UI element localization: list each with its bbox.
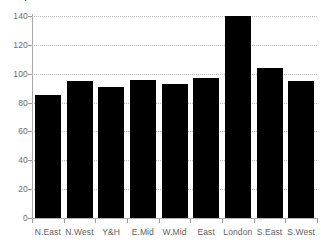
y-axis-label-80: 80 [2, 99, 28, 108]
y-axis-label-slot: 140 [0, 12, 28, 21]
y-axis-label-40: 40 [2, 156, 28, 165]
bar-s-west[interactable] [288, 81, 314, 218]
x-tick-mark-1 [64, 219, 65, 223]
x-tick-mark-end [317, 219, 318, 223]
y-axis-label-slot: 0 [0, 214, 28, 223]
x-axis-label-w-mid: W.Mid [159, 227, 191, 237]
x-tick-mark-8 [285, 219, 286, 223]
y-tick-mark-120 [28, 45, 32, 46]
gridline-y-140 [32, 16, 317, 18]
x-axis-label-y-h: Y&H [95, 227, 127, 237]
y-axis-label-slot: 120 [0, 41, 28, 50]
x-tick-mark-3 [127, 219, 128, 223]
bar-e-mid[interactable] [130, 80, 156, 219]
bar-s-east[interactable] [257, 68, 283, 218]
y-tick-mark-100 [28, 74, 32, 75]
x-tick-mark-5 [190, 219, 191, 223]
bar-n-west[interactable] [67, 81, 93, 218]
y-axis-label-100: 100 [2, 70, 28, 79]
y-axis-label-0: 0 [2, 214, 28, 223]
y-axis-label-slot: 60 [0, 127, 28, 136]
x-axis-label-n-west: N.West [64, 227, 96, 237]
y-axis-label-60: 60 [2, 127, 28, 136]
y-tick-mark-60 [28, 131, 32, 132]
x-axis-label-s-west: S.West [285, 227, 317, 237]
x-axis-label-london: London [222, 227, 254, 237]
x-tick-mark-0 [32, 219, 33, 223]
y-axis-label-120: 120 [2, 41, 28, 50]
bar-london[interactable] [225, 16, 251, 218]
x-tick-mark-7 [254, 219, 255, 223]
bar-chart-figure: . 020406080100120140 N.EastN.WestY&HE.Mi… [0, 0, 321, 247]
y-tick-mark-140 [28, 16, 32, 17]
plot-area [32, 16, 317, 218]
x-axis-label-e-mid: E.Mid [127, 227, 159, 237]
bar-east[interactable] [193, 78, 219, 218]
y-tick-mark-20 [28, 189, 32, 190]
bar-w-mid[interactable] [162, 84, 188, 218]
y-axis-label-20: 20 [2, 185, 28, 194]
bar-n-east[interactable] [35, 95, 61, 218]
y-tick-mark-40 [28, 160, 32, 161]
gridline-y-0 [32, 218, 317, 220]
y-axis-label-slot: 100 [0, 70, 28, 79]
y-tick-mark-80 [28, 103, 32, 104]
y-axis-label-140: 140 [2, 12, 28, 21]
x-tick-mark-6 [222, 219, 223, 223]
x-axis-label-east: East [190, 227, 222, 237]
x-axis-label-s-east: S.East [254, 227, 286, 237]
gridline-y-120 [32, 45, 317, 47]
x-tick-mark-2 [95, 219, 96, 223]
x-axis-label-n-east: N.East [32, 227, 64, 237]
y-axis-label-slot: 40 [0, 156, 28, 165]
bar-y-h[interactable] [98, 87, 124, 218]
y-axis-label-slot: 20 [0, 185, 28, 194]
y-axis-label-slot: 80 [0, 99, 28, 108]
clipped-chart-title: . [24, 0, 31, 4]
x-tick-mark-4 [159, 219, 160, 223]
